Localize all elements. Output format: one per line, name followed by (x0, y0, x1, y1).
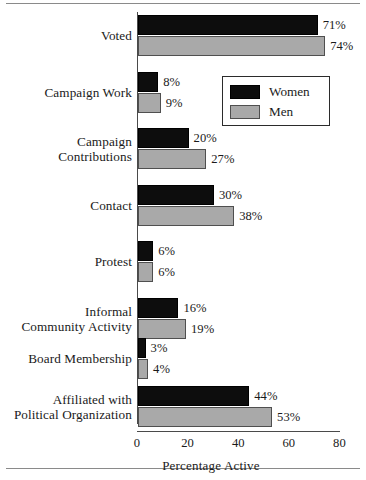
category-label: Board Membership (0, 351, 132, 367)
bar-men (138, 93, 161, 113)
legend-entry-women: Women (230, 83, 310, 100)
bar-women (138, 298, 178, 318)
bar-women (138, 72, 158, 92)
legend-swatch-women-icon (230, 85, 260, 99)
bar-value-label: 8% (163, 75, 180, 90)
bar-row-men: 19% (138, 319, 348, 339)
bar-row-women: 44% (138, 386, 348, 406)
bar-row-men: 74% (138, 36, 348, 56)
legend-swatch-men-icon (230, 105, 260, 119)
bar-row-men: 6% (138, 262, 348, 282)
bar-row-men: 27% (138, 149, 348, 169)
legend-label-women: Women (269, 84, 310, 100)
bar-women (138, 241, 153, 261)
bar-men (138, 36, 325, 56)
bar-row-women: 6% (138, 241, 348, 261)
bar-group: Affiliated with Political Organization44… (0, 386, 366, 428)
bar-group: Contact30%38% (0, 185, 366, 227)
bar-value-label: 9% (166, 96, 183, 111)
bar-group: Voted71%74% (0, 15, 366, 57)
category-label: Voted (0, 28, 132, 44)
chart-legend: Women Men (222, 76, 330, 126)
bar-value-label: 74% (330, 39, 353, 54)
bar-women (138, 338, 146, 358)
bar-women (138, 128, 189, 148)
category-label: Contact (0, 198, 132, 214)
bar-value-label: 30% (219, 188, 242, 203)
bar-men (138, 359, 148, 379)
x-axis-title-text: Percentage Active (106, 458, 260, 474)
bar-women (138, 386, 249, 406)
bar-row-women: 16% (138, 298, 348, 318)
bar-men (138, 149, 206, 169)
x-tick-label: 20 (181, 436, 194, 451)
bar-row-women: 71% (138, 15, 348, 35)
bar-value-label: 6% (158, 244, 175, 259)
legend-label-men: Men (269, 104, 293, 120)
plot-area: Voted71%74%Campaign Work8%9%Campaign Con… (0, 8, 366, 423)
bar-value-label: 4% (153, 362, 170, 377)
bar-value-label: 19% (191, 322, 214, 337)
bar-row-men: 53% (138, 407, 348, 427)
x-axis-line (137, 431, 340, 432)
bar-value-label: 38% (239, 209, 262, 224)
bar-value-label: 27% (211, 152, 234, 167)
category-label: Informal Community Activity (0, 304, 132, 335)
bar-men (138, 407, 272, 427)
x-tick-label: 40 (232, 436, 245, 451)
bar-value-label: 16% (183, 301, 206, 316)
bar-row-men: 4% (138, 359, 348, 379)
bar-value-label: 53% (277, 410, 300, 425)
x-axis-title: Percentage Active (0, 458, 366, 474)
chart-figure: Voted71%74%Campaign Work8%9%Campaign Con… (0, 0, 366, 480)
bar-men (138, 319, 186, 339)
bar-row-women: 3% (138, 338, 348, 358)
bar-group: Informal Community Activity16%19% (0, 298, 366, 340)
category-label: Campaign Work (0, 85, 132, 101)
bar-men (138, 262, 153, 282)
x-tick-label: 0 (134, 436, 140, 451)
bar-group: Protest6%6% (0, 241, 366, 283)
x-tick-label: 80 (333, 436, 346, 451)
legend-entry-men: Men (230, 103, 293, 120)
bar-row-women: 20% (138, 128, 348, 148)
bar-men (138, 206, 234, 226)
category-label: Affiliated with Political Organization (0, 392, 132, 423)
x-tick-label: 60 (283, 436, 296, 451)
category-label: Protest (0, 254, 132, 270)
bar-value-label: 6% (158, 265, 175, 280)
bar-value-label: 3% (151, 341, 168, 356)
bar-group: Board Membership3%4% (0, 338, 366, 380)
bar-value-label: 44% (254, 389, 277, 404)
bar-women (138, 185, 214, 205)
bar-row-women: 30% (138, 185, 348, 205)
bar-value-label: 71% (323, 18, 346, 33)
bar-row-men: 38% (138, 206, 348, 226)
bar-women (138, 15, 318, 35)
category-label: Campaign Contributions (0, 134, 132, 165)
page-rule-top (6, 3, 360, 4)
bar-value-label: 20% (194, 131, 217, 146)
bar-group: Campaign Contributions20%27% (0, 128, 366, 170)
